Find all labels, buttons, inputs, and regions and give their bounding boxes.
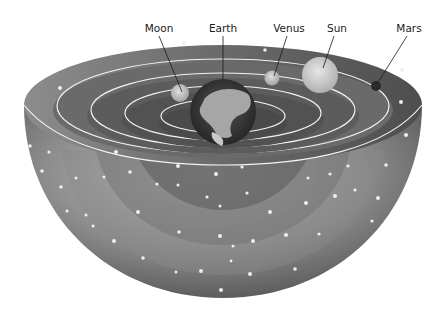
label-moon: Moon <box>145 22 174 34</box>
geocentric-diagram: Moon Earth Venus Sun Mars <box>0 0 446 315</box>
sun-icon <box>302 57 338 93</box>
label-earth: Earth <box>209 22 237 34</box>
label-mars: Mars <box>396 22 421 34</box>
label-venus: Venus <box>273 22 305 34</box>
venus-icon <box>265 71 280 86</box>
mars-icon <box>371 81 381 91</box>
label-sun: Sun <box>327 22 347 34</box>
